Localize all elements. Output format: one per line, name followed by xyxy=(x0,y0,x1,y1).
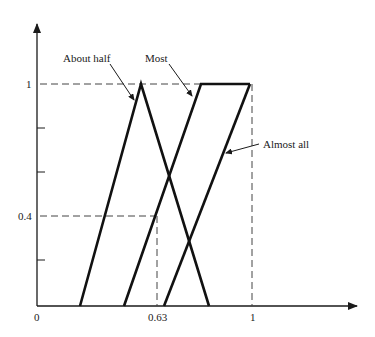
y-tick-label-0.4: 0.4 xyxy=(18,210,32,222)
series-almost-all xyxy=(164,84,250,306)
dashed-guides xyxy=(40,84,252,306)
pointer-about-half xyxy=(110,64,134,100)
fuzzy-membership-chart: About half Most Almost all 1 0.4 0 0.63 … xyxy=(0,0,375,337)
label-most: Most xyxy=(145,52,168,64)
series-most xyxy=(124,84,250,306)
x-tick-label-0.63: 0.63 xyxy=(148,311,168,323)
label-about-half: About half xyxy=(63,52,111,64)
pointer-almost-all xyxy=(226,144,259,153)
pointer-most xyxy=(169,64,192,96)
x-tick-label-0: 0 xyxy=(34,311,40,323)
label-almost-all: Almost all xyxy=(263,138,309,150)
x-tick-label-1: 1 xyxy=(250,311,256,323)
y-tick-label-1: 1 xyxy=(26,78,32,90)
y-ticks xyxy=(37,128,45,260)
